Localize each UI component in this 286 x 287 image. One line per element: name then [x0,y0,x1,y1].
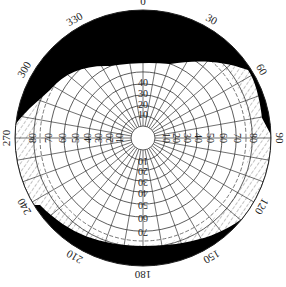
polar-sky-chart: 0306090120150180210240270300330 10203040… [0,0,286,287]
ring-label: 40 [138,188,148,199]
ring-label: 50 [205,133,216,143]
azimuth-label-270: 270 [0,129,12,146]
ring-label: 60 [57,133,68,143]
ring-label: 20 [138,99,148,110]
azimuth-label-0: 0 [140,0,146,7]
ring-label: 20 [171,133,182,143]
ring-label: 10 [138,109,148,120]
ring-label: 80 [27,133,38,143]
ring-label: 60 [138,213,148,224]
ring-label: 30 [93,133,104,143]
ring-label: 50 [70,133,81,143]
azimuth-label-180: 180 [134,269,151,281]
ring-label: 30 [138,177,148,188]
ring-label: 40 [138,77,148,88]
azimuth-label-30: 30 [204,11,220,27]
azimuth-label-90: 90 [274,133,286,145]
ring-label: 50 [138,200,148,211]
ring-label: 70 [232,133,243,143]
ring-label: 80 [248,133,259,143]
ring-label: 40 [193,133,204,143]
ring-label: 10 [161,133,172,143]
ring-label: 20 [104,133,115,143]
ring-label: 20 [138,166,148,177]
ring-label: 60 [218,133,229,143]
ring-label: 30 [138,88,148,99]
ring-label: 10 [114,133,125,143]
ring-label: 40 [82,133,93,143]
ring-label: 10 [138,156,148,167]
ring-label: 70 [43,133,54,143]
ring-label: 70 [138,227,148,238]
ring-label: 30 [182,133,193,143]
azimuth-label-60: 60 [254,62,270,78]
